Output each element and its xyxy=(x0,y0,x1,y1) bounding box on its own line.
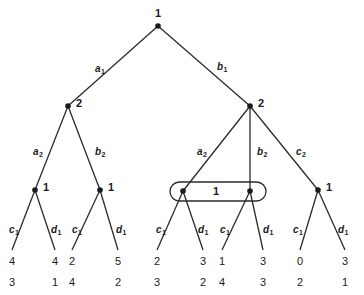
edge-label-subscript: 1 xyxy=(226,229,230,236)
edge-label-text: c xyxy=(156,224,162,235)
tree-edge-e-root-l xyxy=(68,26,158,106)
node-label-n-l3e: 1 xyxy=(326,182,332,193)
edge-label-subscript: 2 xyxy=(203,151,207,158)
tree-node-n-l3b xyxy=(97,187,103,193)
edge-label-e-root-r: b1 xyxy=(217,62,227,72)
edge-label-text: c xyxy=(220,224,226,235)
tree-edge-e-root-r xyxy=(158,26,250,106)
edge-label-subscript: 1 xyxy=(162,229,166,236)
tree-edge-e-l3a-c xyxy=(12,190,35,250)
tree-node-n-l3d xyxy=(247,188,253,194)
tree-graphics xyxy=(0,0,364,295)
leaf-payoff-top-leaf8: 0 xyxy=(292,256,308,267)
edge-label-text: b xyxy=(95,146,101,157)
edge-label-text: a xyxy=(33,146,39,157)
edge-label-subscript: 1 xyxy=(78,229,82,236)
edge-label-text: a xyxy=(197,146,203,157)
edge-label-subscript: 2 xyxy=(102,151,106,158)
edge-label-text: c xyxy=(9,224,15,235)
game-tree-figure: a1b1a2b2a2b2c2c1d1c1d1c1d1c1d1c1d1112211… xyxy=(0,0,364,295)
edge-label-text: d xyxy=(198,224,204,235)
tree-edge-e-l3e-d xyxy=(318,190,345,250)
edge-label-subscript: 1 xyxy=(224,66,228,73)
leaf-payoff-bottom-leaf3: 2 xyxy=(110,277,126,288)
tree-edge-e-l3b-d xyxy=(100,190,118,250)
edge-label-e-l2a-r: b2 xyxy=(95,147,105,157)
edge-label-text: c xyxy=(72,224,78,235)
edge-label-e-root-l: a1 xyxy=(95,64,104,74)
leaf-payoff-top-leaf9: 3 xyxy=(337,256,353,267)
edge-label-text: d xyxy=(338,224,344,235)
leaf-payoff-bottom-leaf2: 4 xyxy=(64,277,80,288)
edge-label-e-l3b-d: d1 xyxy=(116,225,126,235)
node-label-n-l2a: 2 xyxy=(76,98,82,109)
edge-label-e-l3a-d: d1 xyxy=(51,225,61,235)
tree-edge-e-l2b-a xyxy=(183,106,250,191)
edge-label-e-l3a-c: c1 xyxy=(9,225,18,235)
leaf-payoff-top-leaf2: 2 xyxy=(64,256,80,267)
edge-label-e-l3e-d: d1 xyxy=(338,225,348,235)
tree-edge-e-l3d-c xyxy=(222,191,250,250)
edge-label-e-l2b-b: b2 xyxy=(257,147,267,157)
edge-label-e-l2b-a: a2 xyxy=(197,147,206,157)
edge-label-text: a xyxy=(95,63,101,74)
leaf-payoff-top-leaf3: 5 xyxy=(110,256,126,267)
tree-edge-e-l3b-c xyxy=(72,190,100,250)
edge-label-subscript: 2 xyxy=(302,151,306,158)
tree-edge-e-l3e-c xyxy=(300,190,318,250)
tree-node-root xyxy=(155,23,161,29)
edge-label-e-l3e-c: c1 xyxy=(293,225,302,235)
information-set-label: 1 xyxy=(213,186,219,197)
leaf-payoff-top-leaf7: 3 xyxy=(255,256,271,267)
leaf-payoff-bottom-leaf1: 1 xyxy=(47,277,63,288)
tree-node-n-l2b xyxy=(247,103,253,109)
leaf-payoff-bottom-leaf6: 4 xyxy=(214,277,230,288)
tree-node-n-l3e xyxy=(315,187,321,193)
tree-node-n-l3a xyxy=(32,187,38,193)
edge-label-subscript: 2 xyxy=(264,151,268,158)
leaf-payoff-top-leaf0: 4 xyxy=(4,256,20,267)
tree-node-n-l3c xyxy=(180,188,186,194)
node-label-n-l3a: 1 xyxy=(43,182,49,193)
edge-label-subscript: 1 xyxy=(299,229,303,236)
tree-edge-e-l3c-d xyxy=(183,191,203,250)
node-label-n-l3b: 1 xyxy=(108,182,114,193)
edge-label-subscript: 1 xyxy=(205,229,209,236)
edge-label-subscript: 1 xyxy=(101,68,105,75)
edge-label-e-l3c-d: d1 xyxy=(198,225,208,235)
edge-label-subscript: 2 xyxy=(39,151,43,158)
edge-label-text: c xyxy=(296,146,302,157)
edge-label-subscript: 1 xyxy=(15,229,19,236)
edge-label-text: d xyxy=(51,224,57,235)
edge-label-text: c xyxy=(293,224,299,235)
leaf-payoff-top-leaf6: 1 xyxy=(214,256,230,267)
edge-label-subscript: 1 xyxy=(345,229,349,236)
tree-edge-e-l3c-c xyxy=(157,191,183,250)
leaf-payoff-bottom-leaf5: 2 xyxy=(195,277,211,288)
edge-label-e-l2b-c: c2 xyxy=(296,147,305,157)
leaf-payoff-bottom-leaf8: 2 xyxy=(292,277,308,288)
edge-label-e-l2a-l: a2 xyxy=(33,147,42,157)
leaf-payoff-top-leaf1: 4 xyxy=(47,256,63,267)
leaf-payoff-bottom-leaf7: 3 xyxy=(255,277,271,288)
leaf-payoff-top-leaf5: 3 xyxy=(195,256,211,267)
edge-label-text: b xyxy=(257,146,263,157)
node-label-root: 1 xyxy=(155,8,161,19)
edge-label-e-l3b-c: c1 xyxy=(72,225,81,235)
edge-label-e-l3d-c: c1 xyxy=(220,225,229,235)
leaf-payoff-bottom-leaf4: 3 xyxy=(149,277,165,288)
edge-label-text: d xyxy=(116,224,122,235)
edge-label-e-l3c-c: c1 xyxy=(156,225,165,235)
edge-label-subscript: 1 xyxy=(123,229,127,236)
tree-edge-e-l3a-d xyxy=(35,190,55,250)
edge-label-subscript: 1 xyxy=(58,229,62,236)
leaf-payoff-bottom-leaf9: 1 xyxy=(337,277,353,288)
edge-layer xyxy=(12,26,345,250)
node-label-n-l2b: 2 xyxy=(258,98,264,109)
leaf-payoff-top-leaf4: 2 xyxy=(149,256,165,267)
leaf-payoff-bottom-leaf0: 3 xyxy=(4,277,20,288)
edge-label-text: d xyxy=(263,224,269,235)
edge-label-subscript: 1 xyxy=(270,229,274,236)
edge-label-e-l3d-d: d1 xyxy=(263,225,273,235)
tree-node-n-l2a xyxy=(65,103,71,109)
